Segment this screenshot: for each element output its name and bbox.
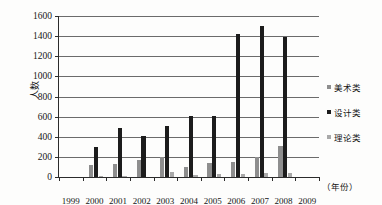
x-axis-tick-label: 2009 [298, 196, 316, 205]
x-axis-tick [248, 177, 249, 181]
y-axis-tick-label: 600 [38, 112, 52, 122]
bar [212, 116, 216, 177]
x-axis-tick [201, 177, 202, 181]
x-axis-tick [319, 177, 320, 181]
x-axis-tick [59, 177, 60, 181]
bar [283, 37, 287, 177]
y-axis-tick [55, 117, 59, 118]
bar [193, 175, 197, 177]
bar [207, 163, 211, 177]
bar [231, 162, 235, 177]
bar [278, 146, 282, 177]
bar-group [164, 16, 188, 177]
y-axis-tick [55, 97, 59, 98]
bar [217, 174, 221, 177]
bar [122, 176, 126, 178]
x-axis-tick-label: 2000 [85, 196, 103, 205]
legend-swatch-icon [327, 135, 331, 139]
legend-label: 理论类 [334, 131, 361, 143]
bar [113, 164, 117, 177]
y-axis-tick-label: 200 [38, 152, 52, 162]
bar-chart: 人数 02004006008001000120014001600 1999200… [0, 0, 382, 205]
bar-group [235, 16, 259, 177]
x-axis-tick-label: 2003 [156, 196, 174, 205]
x-axis-tick-label: 1999 [62, 196, 80, 205]
legend-label: 美术类 [334, 81, 361, 93]
bar [255, 157, 259, 177]
bar [118, 128, 122, 177]
bar [165, 126, 169, 177]
y-axis-tick-label: 800 [38, 92, 52, 102]
x-axis-tick [272, 177, 273, 181]
bar [89, 165, 93, 177]
bar [184, 167, 188, 177]
bar [94, 147, 98, 177]
bar [141, 136, 145, 177]
bar-group [70, 16, 94, 177]
y-axis-tick-label: 1000 [33, 71, 52, 81]
y-axis-tick [55, 137, 59, 138]
legend-swatch-icon [327, 110, 331, 114]
y-axis-tick [55, 76, 59, 77]
legend-label: 设计类 [334, 106, 361, 118]
y-axis-tick [55, 157, 59, 158]
legend: 美术类设计类理论类 [327, 81, 382, 156]
bar-group [212, 16, 236, 177]
x-axis-tick-label: 2004 [180, 196, 198, 205]
bar-group [188, 16, 212, 177]
x-axis-tick [295, 177, 296, 181]
bar [160, 157, 164, 177]
bar [137, 160, 141, 177]
y-axis-tick [55, 56, 59, 57]
bar [288, 173, 292, 177]
y-axis-tick-label: 1200 [33, 51, 52, 61]
y-axis-tick-label: 1400 [33, 31, 52, 41]
bar-group [283, 16, 307, 177]
bar [99, 176, 103, 177]
x-axis-tick-label: 2001 [109, 196, 127, 205]
y-axis-tick [55, 36, 59, 37]
bar-group [93, 16, 117, 177]
y-axis-tick [55, 16, 59, 17]
x-axis-tick [154, 177, 155, 181]
x-axis-unit-label: （年份） [322, 180, 358, 192]
x-axis-tick-label: 2002 [133, 196, 151, 205]
plot-area: 02004006008001000120014001600 1999200020… [58, 16, 319, 178]
y-axis-tick-label: 0 [47, 172, 52, 182]
bar [241, 174, 245, 177]
x-axis-tick-label: 2005 [204, 196, 222, 205]
bar-group [117, 16, 141, 177]
x-axis-tick [106, 177, 107, 181]
bar-group [141, 16, 165, 177]
bar [264, 173, 268, 177]
x-axis-tick-label: 2007 [251, 196, 269, 205]
x-axis-tick-label: 2006 [227, 196, 245, 205]
legend-item[interactable]: 理论类 [327, 131, 382, 143]
bar [170, 172, 174, 177]
y-axis-tick-label: 1600 [33, 11, 52, 21]
x-axis-tick [177, 177, 178, 181]
bar [260, 26, 264, 177]
x-axis-tick [224, 177, 225, 181]
y-axis-tick-label: 400 [38, 132, 52, 142]
bar [189, 116, 193, 177]
legend-item[interactable]: 美术类 [327, 81, 382, 93]
bar [236, 34, 240, 177]
legend-item[interactable]: 设计类 [327, 106, 382, 118]
x-axis-tick-label: 2008 [275, 196, 293, 205]
x-axis-tick [130, 177, 131, 181]
x-axis-tick [83, 177, 84, 181]
legend-swatch-icon [327, 85, 331, 89]
